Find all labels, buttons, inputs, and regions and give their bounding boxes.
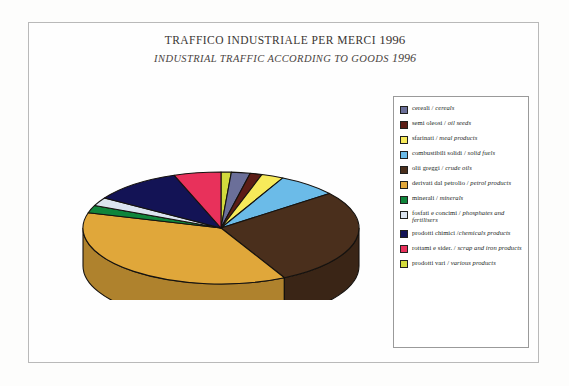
legend-color-swatch [400,121,408,129]
legend-label-english: chemicals products [459,229,511,236]
legend-label-italian: minerali [412,194,434,201]
legend-label-english: petrol products [470,179,511,186]
legend-item-label: prodotti chimici /chemicals products [412,229,510,236]
legend-color-swatch [400,196,408,204]
legend-label-english: crude oils [445,164,472,171]
legend-color-swatch [400,211,408,219]
legend-item: minerali / minerals [400,194,523,204]
legend-color-swatch [400,230,408,238]
pie-chart-svg: prodotti vari / various productscereali … [56,150,386,300]
legend-item: prodotti vari / various products [400,259,523,269]
chart-title-english-year: 1996 [392,51,416,65]
legend-item: prodotti chimici /chemicals products [400,229,523,239]
legend-item-label: fosfati e concimi / phosphates and ferti… [412,209,523,223]
chart-title-english: INDUSTRIAL TRAFFIC ACCORDING TO GOODS 19… [120,51,450,66]
legend-label-italian: prodotti vari [412,259,445,266]
legend-item-label: minerali / minerals [412,194,463,201]
legend-item-label: olii greggi / crude oils [412,164,472,171]
chart-title-italian-year: 1996 [379,32,405,47]
legend-color-swatch [400,151,408,159]
legend-label-italian: combustibili solidi [412,149,462,156]
legend-label-italian: fosfati e concimi [412,209,457,216]
legend-item: rottami e sider. / scrap and iron produc… [400,244,523,254]
legend-item: cereali / cereals [400,104,523,114]
chart-title-block: TRAFFICO INDUSTRIALE PER MERCI 1996 INDU… [120,32,450,66]
legend-label-italian: olii greggi [412,164,440,171]
legend-item-label: cereali / cereals [412,104,454,111]
legend-label-italian: sfarinati [412,134,434,141]
legend-label-english: various products [451,259,496,266]
legend-item-label: semi oleosi / oil seeds [412,119,471,126]
legend-item-label: combustibili solidi / solid fuels [412,149,495,156]
legend-item: combustibili solidi / solid fuels [400,149,523,159]
pie-top-slices: prodotti vari / various productscereali … [83,172,359,284]
legend-item-label: rottami e sider. / scrap and iron produc… [412,244,522,251]
legend-color-swatch [400,245,408,253]
legend-label-italian: derivati dal petrolio [412,179,465,186]
chart-title-italian-text: TRAFFICO INDUSTRIALE PER MERCI [165,34,376,46]
legend-color-swatch [400,166,408,174]
chart-title-italian: TRAFFICO INDUSTRIALE PER MERCI 1996 [120,32,450,48]
legend-items-container: cereali / cerealssemi oleosi / oil seeds… [400,104,523,268]
legend-item: sfarinati / meal products [400,134,523,144]
legend-color-swatch [400,136,408,144]
pie-chart: prodotti vari / various productscereali … [56,150,386,300]
legend-label-english: cereals [435,104,454,111]
legend-label-english: oil seeds [448,119,471,126]
legend-color-swatch [400,106,408,114]
legend-label-italian: semi oleosi [412,119,442,126]
legend-label-english: scrap and iron products [457,244,521,251]
legend-label-italian: prodotti chimici [412,229,455,236]
legend-label-italian: cereali [412,104,430,111]
legend-label-english: solid fuels [468,149,495,156]
legend-label-english: minerals [440,194,463,201]
legend-item: semi oleosi / oil seeds [400,119,523,129]
legend-item-label: derivati dal petrolio / petrol products [412,179,511,186]
legend-label-english: meal products [439,134,477,141]
chart-title-english-text: INDUSTRIAL TRAFFIC ACCORDING TO GOODS [154,53,389,64]
page-canvas: TRAFFICO INDUSTRIALE PER MERCI 1996 INDU… [0,0,569,386]
legend-item: fosfati e concimi / phosphates and ferti… [400,209,523,223]
chart-legend: cereali / cerealssemi oleosi / oil seeds… [393,96,529,348]
legend-color-swatch [400,181,408,189]
legend-item-label: sfarinati / meal products [412,134,477,141]
legend-item-label: prodotti vari / various products [412,259,496,266]
legend-color-swatch [400,260,408,268]
legend-label-italian: rottami e sider. [412,244,452,251]
legend-item: olii greggi / crude oils [400,164,523,174]
legend-item: derivati dal petrolio / petrol products [400,179,523,189]
